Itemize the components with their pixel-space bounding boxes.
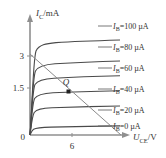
curve-ib-40ua (30, 91, 120, 135)
curves-group (30, 40, 120, 135)
y-axis-arrow (27, 14, 33, 22)
legend-group: IB=100 µA IB=80 µA IB=60 µA IB=40 µA IB=… (112, 22, 149, 132)
legend-ib-0ua-value: =0 µA (120, 122, 141, 131)
x-axis-title: UCE/V (133, 132, 157, 144)
x-axis-title-unit: /V (148, 132, 158, 142)
legend-item-ib-80ua: IB=80 µA (112, 43, 145, 53)
transistor-output-characteristics-chart: 3 1.5 0 6 IC/mA UCE/V (0, 0, 166, 158)
svg-text:IC/mA: IC/mA (35, 8, 60, 20)
ytick-label-0: 0 (21, 132, 26, 142)
x-axis-title-sub: CE (140, 137, 148, 144)
curve-ib-100ua (30, 40, 120, 135)
x-axis-arrow (122, 132, 130, 138)
y-axis-title-unit: /mA (43, 8, 60, 18)
legend-ib-100ua-value: =100 µA (120, 22, 149, 31)
legend-item-ib-0ua: IB=0 µA (112, 122, 141, 132)
legend-ib-20ua-value: =20 µA (120, 106, 145, 115)
q-point-marker (67, 90, 71, 94)
legend-item-ib-40ua: IB=40 µA (112, 85, 145, 95)
curve-ib-0ua (30, 126, 120, 135)
legend-ib-40ua-value: =40 µA (120, 85, 145, 94)
chart-canvas: 3 1.5 0 6 IC/mA UCE/V (0, 0, 166, 158)
dc-load-line (30, 54, 121, 135)
legend-item-ib-20ua: IB=20 µA (112, 106, 145, 116)
ytick-label-3: 3 (20, 51, 25, 61)
legend-item-ib-60ua: IB=60 µA (112, 64, 145, 74)
q-point-label: Q (63, 77, 70, 87)
operating-point-group: Q (63, 77, 71, 94)
y-axis-title: IC/mA (35, 8, 60, 20)
legend-ib-80ua-value: =80 µA (120, 43, 145, 52)
legend-item-ib-100ua: IB=100 µA (112, 22, 149, 32)
svg-text:UCE/V: UCE/V (133, 132, 157, 144)
ytick-label-1point5: 1.5 (13, 83, 25, 93)
curve-ib-80ua (30, 61, 120, 135)
xtick-label-6: 6 (70, 141, 75, 151)
legend-ib-60ua-value: =60 µA (120, 64, 145, 73)
